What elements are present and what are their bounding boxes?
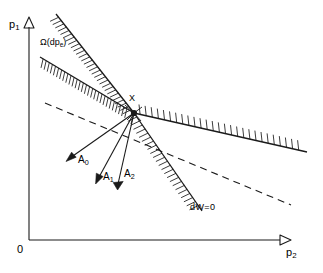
x-axis-label-subscript: 2 [292,251,296,260]
right-ray-line [134,113,307,152]
vector-label-a2: A2 [124,169,135,180]
y-axis-arrowhead-icon [24,17,34,28]
dw-ray-line [134,113,202,211]
y-axis-label-subscript: 1 [15,23,19,32]
cone-upper-hatching [50,17,131,113]
vector-label-a0: A0 [78,155,89,166]
dw-zero-label: dW=0 [190,203,215,212]
axes-group [24,17,291,245]
point-x-label: X [129,94,135,103]
cone-lower-edge [40,57,134,113]
x-axis-label: p2 [286,247,297,260]
cone-region [40,14,134,118]
dw-ray-group [128,113,202,211]
vector-label-a0-subscript: 0 [85,158,89,167]
x-axis-arrowhead-icon [280,235,291,245]
vector-arrow-a0 [66,113,134,162]
origin-label: 0 [17,244,23,255]
dw-ray-hatching [128,117,198,210]
vector-label-a1-subscript: 1 [110,175,114,184]
vector-label-a2-subscript: 2 [131,172,135,181]
right-ray-hatching [139,105,299,151]
price-cone-diagram: p1 p2 0 Ω(dpe) X dW=0 A0 A1 A2 [0,0,323,273]
cone-label: Ω(dpe) [40,38,66,48]
right-ray-group [134,105,307,153]
y-axis-label: p1 [9,19,20,32]
vector-label-a1: A1 [103,172,114,183]
